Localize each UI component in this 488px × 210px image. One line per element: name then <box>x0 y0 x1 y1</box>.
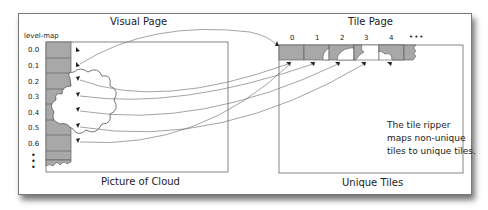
tile-page-caption: Unique Tiles <box>342 177 403 188</box>
visual-page-title: Visual Page <box>110 16 167 27</box>
tile-page-title: Tile Page <box>348 16 393 27</box>
level-row-label: 0.3 <box>28 93 39 101</box>
tile-ellipsis: ••• <box>409 33 424 41</box>
tile-index: 4 <box>389 34 393 42</box>
level-row-label: 0.6 <box>28 140 39 148</box>
level-row-label: 0.2 <box>28 78 39 86</box>
tile-strip <box>279 45 416 60</box>
ellipsis-vertical: ••• <box>31 153 36 171</box>
level-row-label: 0.0 <box>28 46 39 54</box>
note-line: The tile ripper <box>387 119 476 132</box>
level-row-label: 0.5 <box>28 124 39 132</box>
tile-index: 0 <box>290 34 294 42</box>
explanation-note: The tile ripper maps non-unique tiles to… <box>387 119 476 158</box>
tile-index: 1 <box>315 34 319 42</box>
visual-page-caption: Picture of Cloud <box>101 176 180 187</box>
level-row-label: 0.1 <box>28 62 39 70</box>
note-line: tiles to unique tiles. <box>387 145 476 158</box>
tile-index: 2 <box>340 34 344 42</box>
tile-index: 3 <box>364 34 368 42</box>
level-map-label: level-map <box>24 32 59 40</box>
note-line: maps non-unique <box>387 132 476 145</box>
diagram-graphics <box>0 0 488 210</box>
level-row-label: 0.4 <box>28 109 39 117</box>
